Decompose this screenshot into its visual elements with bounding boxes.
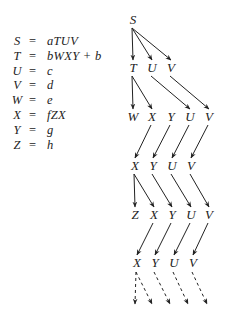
derivation-arrow — [137, 223, 153, 255]
continuation-arrow-dashed — [135, 272, 136, 304]
tree-node-u: U — [147, 60, 158, 75]
tree-node-y: Y — [151, 255, 160, 270]
derivation-arrow — [191, 125, 208, 158]
tree-node-u: U — [185, 109, 196, 124]
tree-node-x: X — [149, 207, 159, 222]
tree-node-v: V — [187, 158, 197, 173]
derivation-arrow — [132, 76, 152, 109]
tree-node-x: X — [132, 255, 142, 270]
tree-node-z: Z — [131, 207, 139, 222]
derivation-arrow — [135, 125, 151, 158]
derivation-tree-diagram: STUVWXYUVXYUVZXYUVXYUV — [0, 0, 226, 320]
derivation-arrow — [155, 223, 171, 255]
derivation-arrow — [134, 174, 135, 207]
continuation-arrow-dashed — [154, 272, 170, 304]
derivation-arrow — [132, 28, 152, 60]
tree-node-y: Y — [167, 109, 176, 124]
tree-node-v: V — [205, 207, 215, 222]
tree-node-v: V — [189, 255, 199, 270]
derivation-arrow — [171, 174, 191, 207]
derivation-arrow — [132, 76, 133, 109]
continuation-arrow-dashed — [136, 272, 152, 304]
tree-node-y: Y — [149, 158, 158, 173]
derivation-arrow — [132, 28, 171, 60]
derivation-arrow — [170, 76, 209, 109]
derivation-arrow — [172, 125, 189, 158]
tree-node-u: U — [186, 207, 197, 222]
tree-node-u: U — [169, 255, 180, 270]
derivation-arrow — [153, 125, 170, 158]
tree-node-w: W — [128, 109, 140, 124]
tree-node-u: U — [167, 158, 178, 173]
tree-node-t: T — [129, 60, 137, 75]
tree-node-v: V — [167, 60, 177, 75]
tree-node-v: V — [205, 109, 215, 124]
continuation-arrow-dashed — [192, 272, 207, 304]
derivation-arrow — [151, 76, 190, 109]
derivation-arrow — [134, 174, 154, 207]
derivation-arrow — [174, 223, 190, 255]
continuation-arrow-dashed — [173, 272, 188, 304]
derivation-arrow — [190, 174, 209, 207]
tree-node-y: Y — [168, 207, 177, 222]
tree-node-s: S — [130, 12, 137, 27]
tree-node-x: X — [147, 109, 157, 124]
derivation-arrow — [152, 174, 172, 207]
derivation-arrow — [193, 223, 208, 255]
tree-node-x: X — [130, 158, 140, 173]
derivation-arrow — [132, 28, 133, 60]
